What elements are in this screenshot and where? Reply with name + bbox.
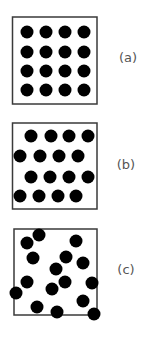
particle-dot: [34, 150, 47, 163]
particle-dot: [51, 306, 64, 319]
particle-dot: [77, 257, 90, 270]
particle-dot: [40, 65, 53, 78]
panel-a: [13, 17, 98, 104]
particle-dot: [77, 295, 90, 308]
particle-dot: [31, 301, 44, 314]
particle-arrangement-diagram: (a) (b) (c): [0, 0, 144, 338]
particle-dot: [78, 84, 91, 97]
particle-dot: [27, 252, 40, 265]
particle-dot: [72, 150, 85, 163]
particle-dot: [14, 190, 27, 203]
panel-a-label: (a): [119, 50, 137, 65]
particle-dot: [25, 130, 38, 143]
particle-dot: [33, 229, 46, 242]
particle-dot: [52, 190, 65, 203]
panel-c: [10, 229, 101, 321]
particle-dot: [21, 237, 34, 250]
particle-dot: [78, 65, 91, 78]
particle-dot: [63, 130, 76, 143]
particle-dot: [21, 276, 34, 289]
particle-dot: [78, 26, 91, 39]
particle-dot: [40, 84, 53, 97]
particle-dot: [10, 287, 23, 300]
particle-dot: [44, 171, 57, 184]
particle-dot: [59, 46, 72, 59]
particle-dot: [60, 251, 73, 264]
particle-dot: [70, 235, 83, 248]
particle-dot: [86, 277, 99, 290]
particle-dot: [59, 276, 72, 289]
particle-dot: [59, 84, 72, 97]
particle-dot: [21, 65, 34, 78]
particle-dot: [40, 26, 53, 39]
panel-b-label: (b): [117, 157, 135, 172]
particle-dot: [78, 46, 91, 59]
particle-dot: [63, 171, 76, 184]
particle-dot: [25, 171, 38, 184]
particle-dot: [46, 283, 59, 296]
particle-dot: [59, 65, 72, 78]
particle-dot: [88, 308, 101, 321]
particle-dot: [21, 26, 34, 39]
particle-dot: [21, 84, 34, 97]
particle-dot: [53, 150, 66, 163]
particle-dot: [21, 46, 34, 59]
particle-dot: [50, 263, 63, 276]
particle-dot: [40, 46, 53, 59]
particle-dot: [70, 190, 83, 203]
particle-dot: [14, 150, 27, 163]
particle-dot: [82, 130, 95, 143]
particle-dot: [82, 171, 95, 184]
particle-dot: [59, 26, 72, 39]
panel-b: [13, 123, 98, 209]
particle-dot: [33, 190, 46, 203]
panel-c-label: (c): [117, 262, 134, 277]
particle-dot: [45, 130, 58, 143]
